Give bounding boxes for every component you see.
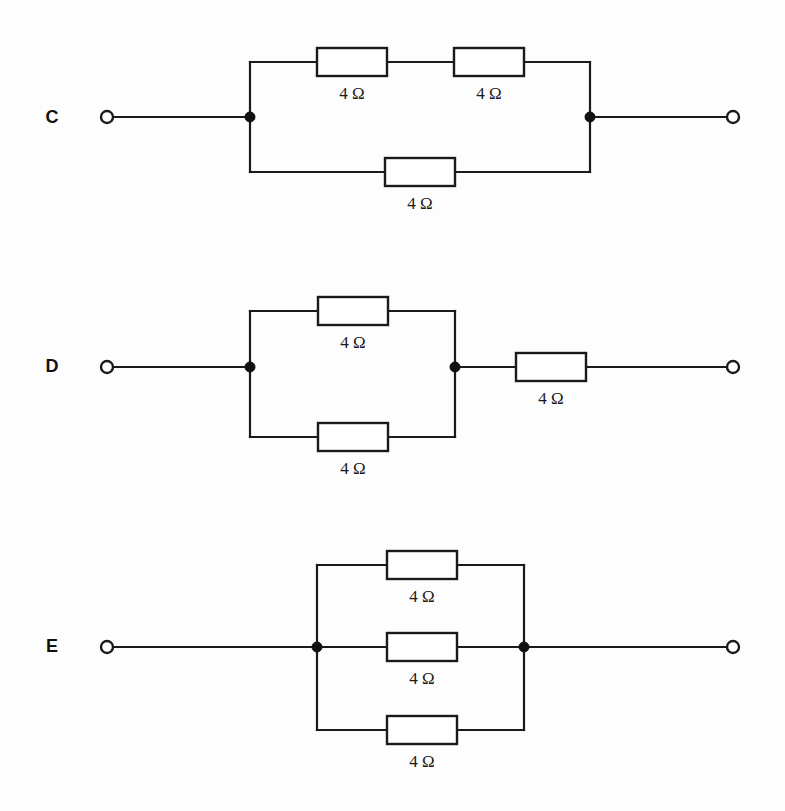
- d-top-resistor-label: 4 Ω: [340, 333, 365, 352]
- e-middle-resistor-body: [387, 633, 457, 661]
- d-right-terminal-icon: [727, 361, 739, 373]
- e-bottom-resistor-label: 4 Ω: [409, 752, 434, 771]
- e-middle-resistor-label: 4 Ω: [409, 669, 434, 688]
- e-top-resistor-label: 4 Ω: [409, 587, 434, 606]
- d-left-junction-dot: [245, 362, 255, 372]
- circuit-e-group: E 4 Ω 4 Ω 4 Ω: [46, 551, 739, 771]
- e-right-junction-dot: [519, 642, 529, 652]
- circuit-e-letter: E: [46, 636, 58, 656]
- d-left-terminal-icon: [101, 361, 113, 373]
- c-left-junction-dot: [245, 112, 255, 122]
- c-right-terminal-icon: [727, 111, 739, 123]
- e-top-resistor-body: [387, 551, 457, 579]
- e-bottom-resistor-body: [387, 716, 457, 744]
- c-top-left-resistor-label: 4 Ω: [339, 84, 364, 103]
- circuit-d-group: D 4 Ω 4 Ω 4 Ω: [46, 297, 740, 478]
- circuit-diagram-canvas: C 4 Ω 4 Ω 4 Ω: [0, 0, 785, 811]
- circuit-c-group: C 4 Ω 4 Ω 4 Ω: [46, 48, 740, 213]
- d-bottom-resistor-label: 4 Ω: [340, 459, 365, 478]
- c-top-left-resistor-body: [317, 48, 387, 76]
- c-bottom-resistor-body: [385, 158, 455, 186]
- circuit-d-letter: D: [46, 356, 59, 376]
- c-top-right-resistor-label: 4 Ω: [476, 84, 501, 103]
- c-right-junction-dot: [585, 112, 595, 122]
- d-top-resistor-body: [318, 297, 388, 325]
- d-series-resistor-label: 4 Ω: [538, 389, 563, 408]
- c-left-terminal-icon: [101, 111, 113, 123]
- d-bottom-resistor-body: [318, 423, 388, 451]
- d-right-junction-dot: [450, 362, 460, 372]
- diagram-page: C 4 Ω 4 Ω 4 Ω: [0, 0, 785, 811]
- c-top-right-resistor-body: [454, 48, 524, 76]
- e-left-junction-dot: [312, 642, 322, 652]
- circuit-c-letter: C: [46, 107, 59, 127]
- e-left-terminal-icon: [101, 641, 113, 653]
- e-right-terminal-icon: [727, 641, 739, 653]
- d-series-resistor-body: [516, 353, 586, 381]
- c-bottom-resistor-label: 4 Ω: [407, 194, 432, 213]
